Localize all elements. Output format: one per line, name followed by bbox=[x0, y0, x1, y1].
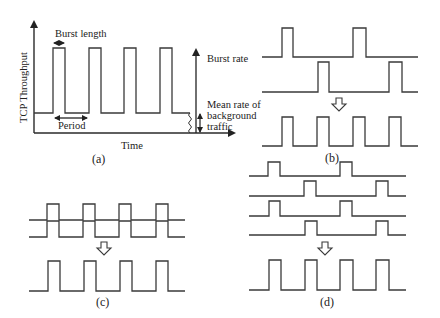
burst-rate-label: Burst rate bbox=[207, 53, 248, 64]
aggregate-signal bbox=[29, 261, 185, 291]
break-squiggle-icon bbox=[189, 113, 192, 133]
burst-signal bbox=[34, 48, 190, 113]
x-axis-label: Time bbox=[121, 140, 143, 151]
input-signal-3 bbox=[249, 201, 406, 216]
input-signal-2 bbox=[249, 181, 406, 196]
panel-c-caption: (c) bbox=[96, 295, 109, 309]
period-label: Period bbox=[58, 120, 86, 131]
input-signal-2 bbox=[262, 62, 418, 92]
input-signal-1 bbox=[262, 28, 418, 57]
down-arrow-icon bbox=[318, 242, 332, 255]
down-arrow-icon bbox=[97, 242, 111, 255]
mean-rate-label-line1: Mean rate of bbox=[207, 99, 261, 110]
panel-a: TCP Throughput Time (a) Burst length Per… bbox=[18, 22, 261, 166]
mean-rate-label-line2: background bbox=[207, 110, 257, 121]
y-axis-label: TCP Throughput bbox=[18, 52, 29, 123]
input-signal-4 bbox=[249, 221, 406, 235]
panel-b: (b) bbox=[262, 28, 418, 165]
panel-c: (c) bbox=[29, 204, 185, 309]
aggregate-signal bbox=[262, 117, 418, 146]
panel-b-caption: (b) bbox=[325, 151, 339, 165]
burst-traffic-diagram: TCP Throughput Time (a) Burst length Per… bbox=[0, 0, 440, 318]
panel-d: (d) bbox=[249, 162, 406, 309]
panel-d-caption: (d) bbox=[320, 295, 334, 309]
aggregate-signal bbox=[249, 260, 406, 290]
input-signal-2 bbox=[29, 221, 185, 237]
mean-rate-label-line3: traffic bbox=[207, 121, 233, 132]
input-signal-1 bbox=[29, 204, 185, 220]
burst-length-label: Burst length bbox=[55, 28, 107, 39]
panel-a-caption: (a) bbox=[92, 152, 105, 166]
down-arrow-icon bbox=[332, 98, 346, 111]
